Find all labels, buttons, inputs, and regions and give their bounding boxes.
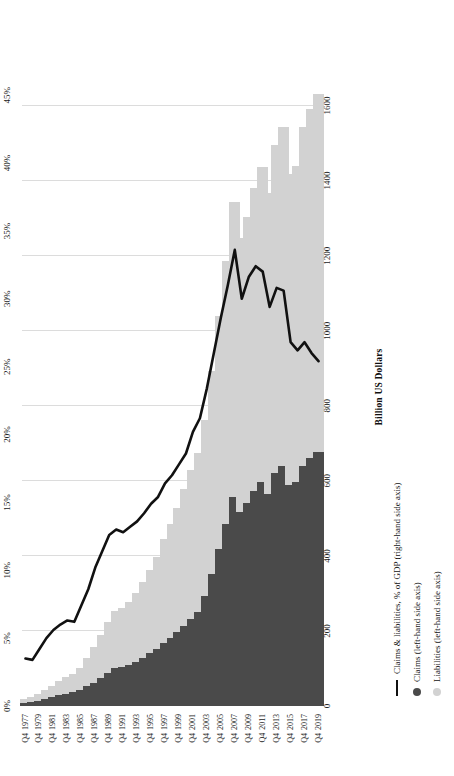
value-axis-tick: 800 [322, 399, 332, 413]
value-axis-tick: 0 [322, 704, 332, 709]
value-axis-tick: 400 [322, 549, 332, 563]
category-tick-label: Q42007 [231, 714, 239, 776]
category-tick-label: Q41997 [161, 714, 169, 776]
category-axis: Q41977Q41979Q41981Q41983Q41985Q41987Q419… [22, 710, 322, 776]
percent-axis-tick: 20% [2, 426, 12, 443]
chart-figure: 0%5%10%15%20%25%30%35%40%45% Q41977Q4197… [0, 0, 454, 776]
category-tick-label: Q42001 [189, 714, 197, 776]
plot-area [22, 68, 322, 706]
legend-item-liabilities: Liabilities (left-hand side axis) [432, 571, 442, 696]
percent-axis-tick: 45% [2, 87, 12, 104]
category-tick-label: Q42011 [259, 714, 267, 776]
category-tick-label: Q41999 [175, 714, 183, 776]
secondary-percent-axis: 0%5%10%15%20%25%30%35%40%45% [2, 68, 20, 706]
category-tick-label: Q42005 [217, 714, 225, 776]
value-axis-tick: 1600 [322, 97, 332, 115]
percent-axis-tick: 5% [2, 632, 12, 644]
category-tick-label: Q41989 [105, 714, 113, 776]
category-tick-label: Q41995 [147, 714, 155, 776]
chart-legend: Claims & liabilities, % of GDP (right-ha… [392, 76, 448, 696]
category-tick-label: Q42015 [287, 714, 295, 776]
percent-axis-tick: 25% [2, 358, 12, 375]
legend-item-line: Claims & liabilities, % of GDP (right-ha… [392, 483, 402, 696]
stacked-bar-series [22, 68, 322, 706]
value-axis-tick: 1200 [322, 247, 332, 265]
value-axis-tick: 1400 [322, 172, 332, 190]
category-tick-label: Q41985 [77, 714, 85, 776]
legend-label-line: Claims & liabilities, % of GDP (right-ha… [392, 483, 402, 674]
category-tick-label: Q41983 [63, 714, 71, 776]
category-tick-label: Q42013 [273, 714, 281, 776]
claims-dot-marker [413, 688, 421, 696]
percent-axis-tick: 35% [2, 223, 12, 240]
category-tick-label: Q41987 [91, 714, 99, 776]
category-tick-label: Q42003 [203, 714, 211, 776]
value-axis-title: Billion US Dollars [374, 68, 384, 706]
percent-axis-tick: 15% [2, 494, 12, 511]
percent-axis-tick: 40% [2, 155, 12, 172]
value-axis: 02004006008001000120014001600 [322, 68, 378, 706]
percent-axis-tick: 10% [2, 562, 12, 579]
legend-item-claims: Claims (left-hand side axis) [412, 582, 422, 696]
category-tick-label: Q41991 [119, 714, 127, 776]
percent-axis-tick: 0% [2, 700, 12, 712]
category-tick-label: Q42017 [301, 714, 309, 776]
category-tick-label: Q41979 [35, 714, 43, 776]
category-tick-label: Q41981 [49, 714, 57, 776]
value-axis-tick: 600 [322, 474, 332, 488]
category-tick-label: Q41993 [133, 714, 141, 776]
value-axis-tick: 200 [322, 624, 332, 638]
liabilities-dot-marker [433, 688, 441, 696]
legend-label-liabilities: Liabilities (left-hand side axis) [432, 571, 442, 682]
percent-axis-tick: 30% [2, 291, 12, 308]
category-tick-label: Q42009 [245, 714, 253, 776]
category-tick-label: Q42019 [315, 714, 323, 776]
legend-label-claims: Claims (left-hand side axis) [412, 582, 422, 682]
category-tick-label: Q41977 [22, 714, 30, 776]
line-marker [396, 680, 399, 696]
value-axis-tick: 1000 [322, 322, 332, 340]
